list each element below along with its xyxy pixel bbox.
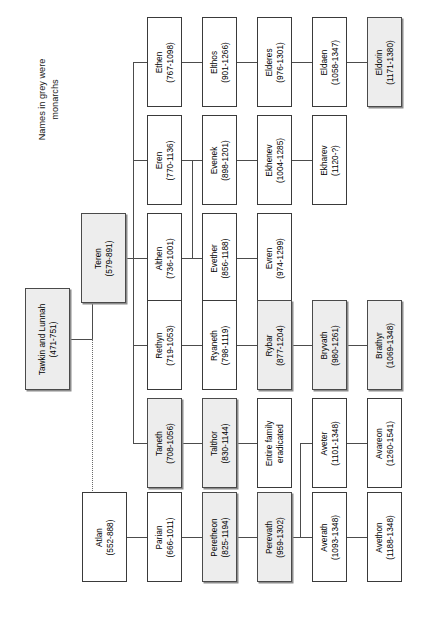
node-tawkin-and-lunnah[interactable]: Tawkin and Lunnah (471-751) [25,288,70,390]
node-years: (980-1261) [330,325,341,366]
connector-to-averath [300,537,312,538]
node-eldaen[interactable]: Eldaen (1058-1347) [312,17,347,107]
node-evether[interactable]: Evether (856-1188) [202,213,237,303]
family-tree-diagram: Names in grey were monarchs [0,0,428,617]
node-evren[interactable]: Evren (974-1299) [257,213,292,303]
connector-ekhenev-ekharev [292,160,312,161]
connector-evenek-ekhenev [237,160,257,161]
node-name: Averath [319,514,330,559]
node-years: (1171-1380) [385,40,396,85]
node-years: (1069-1348) [385,322,396,367]
node-aveter[interactable]: Aveter (1101-1348) [312,398,347,488]
node-ethen[interactable]: Ethen (767-1098) [147,17,182,107]
node-ekharev[interactable]: Ekharev (1120-?) [312,115,347,205]
node-name: Talthor [209,423,220,463]
connector-parian-peretheon [182,537,202,538]
node-years: (719-1053) [165,325,176,366]
node-atlan[interactable]: Atlan (552-888) [82,492,127,582]
node-averath[interactable]: Averath (1093-1348) [312,492,347,582]
node-years: (959-1302) [275,517,286,558]
node-avethon[interactable]: Avethon (1188-1348) [367,492,402,582]
node-name: Parian [154,517,165,557]
connector-eren-branch-down [192,160,193,258]
connector-talthor-eradicated [237,443,257,444]
node-years: (1120-?) [330,145,341,176]
connector-teren-children-spine [133,62,134,443]
node-eldorin[interactable]: Eldorin (1171-1380) [367,17,402,107]
node-brathyr[interactable]: Brathyr (1069-1348) [367,300,402,390]
node-name: Althen [154,238,165,279]
node-althen[interactable]: Althen (736-1001) [147,213,182,303]
node-name: Avareon [374,420,385,465]
node-talthor[interactable]: Talthor (830-1144) [202,398,237,488]
connector-peretheon-perevath [237,537,257,538]
node-name: Peretheon [209,517,220,557]
connector-atlan-parian [127,537,147,538]
node-years: (901-1266) [220,42,231,83]
legend-caption: Names in grey were monarchs [18,14,80,184]
node-name: Tawkin and Lunnah [37,303,48,375]
node-years: (471-751) [48,303,59,375]
node-years: (877-1204) [275,325,286,366]
connector-ryaneth-rybar [237,345,257,346]
connector-eldaen-eldorin [347,62,367,63]
node-teren[interactable]: Teren (579-891) [81,213,126,303]
node-name: Taneth [154,423,165,464]
node-years: (666-1011) [165,517,176,557]
node-years: (736-1001) [165,238,176,279]
node-elderes[interactable]: Elderes (976-1301) [257,17,292,107]
node-years: (1004-1285) [275,137,286,182]
connector-perevath-out [292,537,300,538]
node-years: (976-1301) [275,42,286,83]
node-years: (1101-1348) [330,421,341,466]
node-name: Atlan [94,519,105,555]
node-name: Eren [154,140,165,180]
node-years: (856-1188) [220,238,231,278]
node-peretheon[interactable]: Peretheon (825-1194) [202,492,237,582]
node-name: Perevath [264,517,275,558]
node-name: Ekharev [319,145,330,176]
node-name: Evether [209,238,220,278]
connector-elthos-elderes [237,62,257,63]
node-name: Ekhenev [264,137,275,182]
connector-to-ethen [133,62,147,63]
node-eren[interactable]: Eren (770-1136) [147,115,182,205]
node-name: Aveter [319,421,330,466]
node-ekhenev[interactable]: Ekhenev (1004-1285) [257,115,292,205]
node-years: (1058-1347) [330,39,341,84]
node-name: Teren [93,240,104,276]
node-perevath[interactable]: Perevath (959-1302) [257,492,292,582]
node-avareon[interactable]: Avareon (1260-1541) [367,398,402,488]
node-name: Eldorin [374,40,385,85]
connector-bryvath-brathyr [347,345,367,346]
node-entire-family-eradicated[interactable]: Entire family eradicated [257,398,292,488]
node-evenek[interactable]: Evenek (898-1201) [202,115,237,205]
node-parian[interactable]: Parian (666-1011) [147,492,182,582]
node-name: Entire family [264,420,275,466]
node-years: (1188-1348) [385,515,396,560]
node-rybar[interactable]: Rybar (877-1204) [257,300,292,390]
connector-aveter-avareon [347,443,367,444]
connector-rybar-bryvath [292,345,312,346]
connector-perevath-children-spine [300,443,301,538]
node-elthos[interactable]: Elthos (901-1266) [202,17,237,107]
node-ryaneth[interactable]: Ryaneth (798-1119) [202,300,237,390]
node-name: Elderes [264,42,275,83]
node-years: (708-1056) [165,423,176,464]
connector-to-rethyn [133,345,147,346]
connector-evether-evren [237,258,257,259]
connector-taneth-talthor [182,443,202,444]
node-years: (767-1098) [165,42,176,83]
node-name: Rethyn [154,325,165,366]
node-name: Brathyr [374,322,385,367]
connector-elderes-eldaen [292,62,312,63]
node-years: (579-891) [103,240,114,276]
node-years: (825-1194) [220,517,231,557]
node-name: Ryaneth [209,325,220,364]
node-bryvath[interactable]: Bryvath (980-1261) [312,300,347,390]
node-name: Evenek [209,140,220,181]
legend-caption-line1: Names in grey were [38,58,48,140]
node-name: Rybar [264,325,275,366]
node-taneth[interactable]: Taneth (708-1056) [147,398,182,488]
node-rethyn[interactable]: Rethyn (719-1053) [147,300,182,390]
